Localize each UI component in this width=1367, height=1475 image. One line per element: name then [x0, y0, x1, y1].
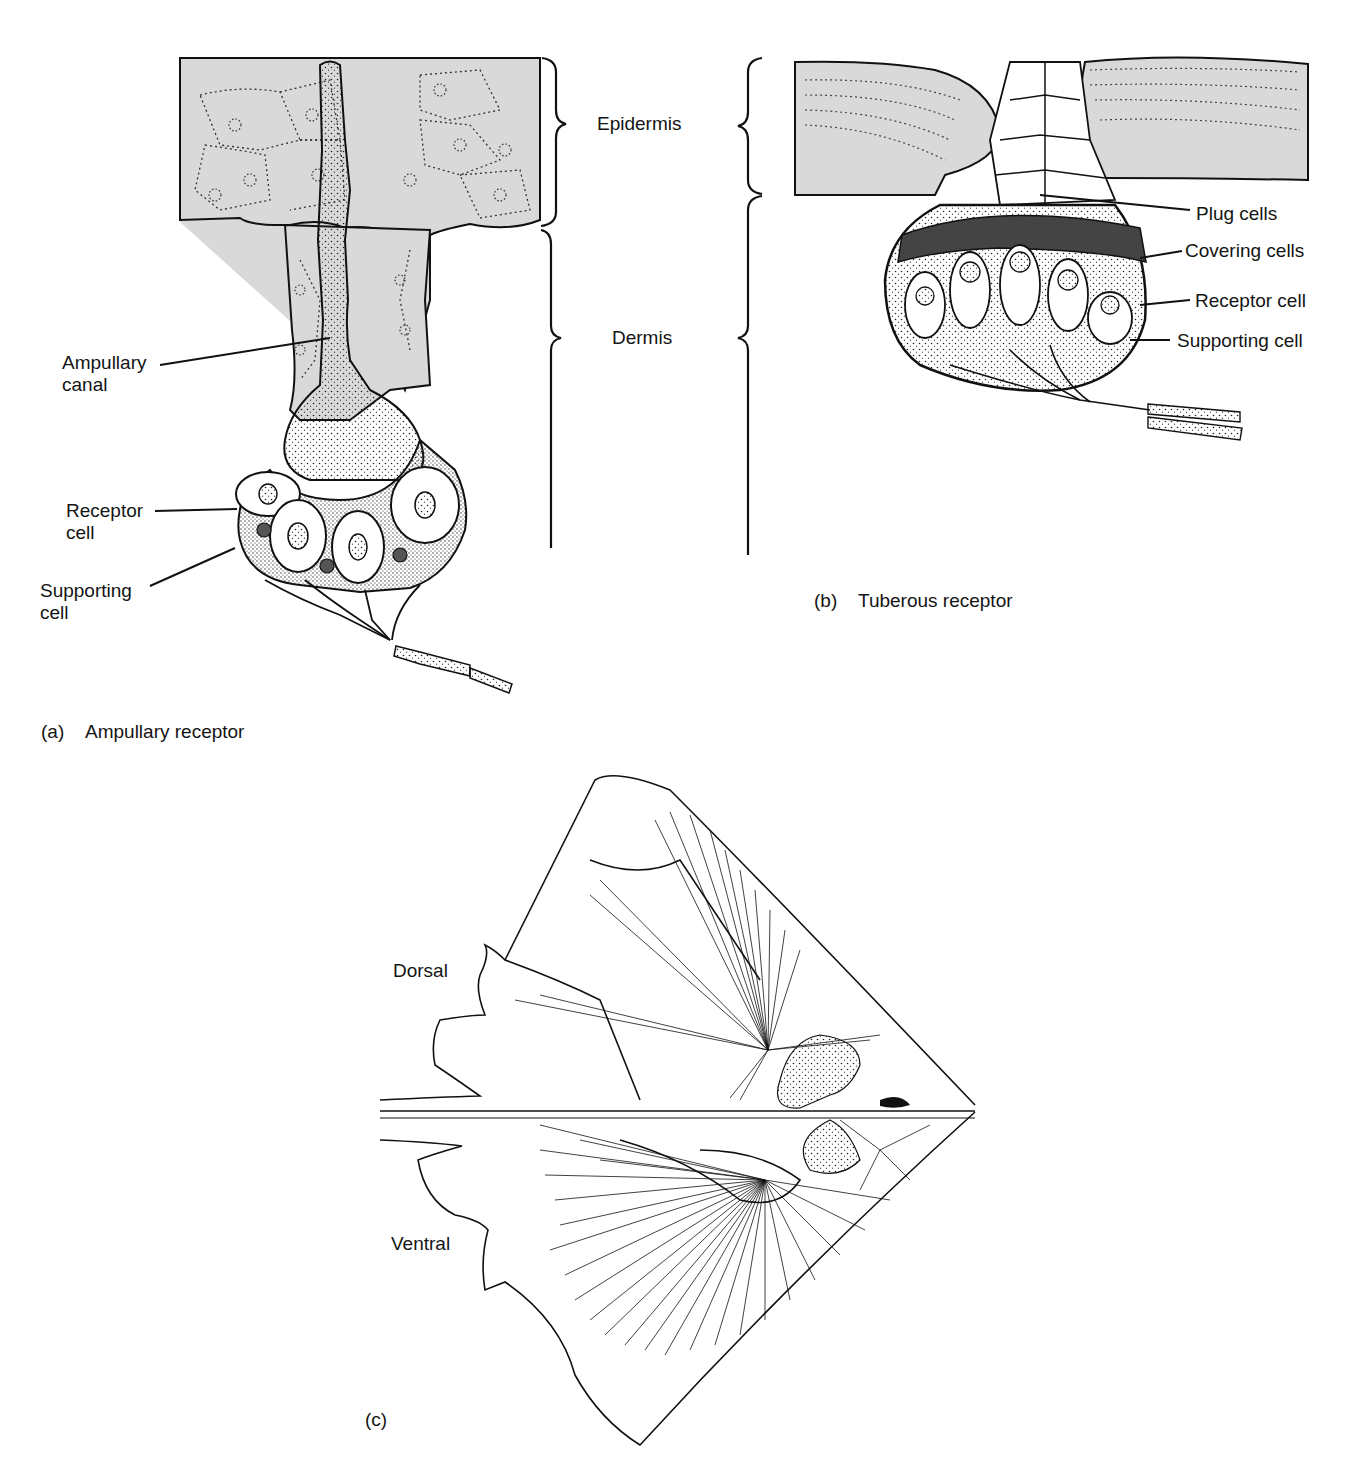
- caption-title-b: Tuberous receptor: [858, 590, 1013, 611]
- caption-panel-a: (a)Ampullary receptor: [41, 721, 244, 743]
- fish-distribution-drawing: [380, 776, 975, 1445]
- ventral-fibres: [540, 1120, 930, 1355]
- label-receptor-cell-b: Receptor cell: [1195, 290, 1306, 312]
- caption-title-a: Ampullary receptor: [85, 721, 244, 742]
- label-supporting-cell-b: Supporting cell: [1177, 330, 1303, 352]
- label-receptor-cell-a: Receptor cell: [66, 500, 156, 544]
- label-dorsal: Dorsal: [393, 960, 448, 982]
- label-epidermis: Epidermis: [597, 113, 681, 135]
- caption-panel-c: (c): [365, 1409, 409, 1431]
- label-dermis: Dermis: [612, 327, 672, 349]
- caption-tag-a: (a): [41, 721, 85, 743]
- label-ventral: Ventral: [391, 1233, 450, 1255]
- caption-panel-b: (b)Tuberous receptor: [814, 590, 1013, 612]
- caption-tag-b: (b): [814, 590, 858, 612]
- label-plug-cells: Plug cells: [1196, 203, 1277, 225]
- caption-tag-c: (c): [365, 1409, 409, 1431]
- label-ampullary-canal: Ampullary canal: [62, 352, 162, 396]
- label-covering-cells: Covering cells: [1185, 240, 1304, 262]
- label-supporting-cell-a: Supporting cell: [40, 580, 150, 624]
- ampullary-receptor-drawing: [150, 57, 540, 693]
- brain-region-detail: [778, 1035, 911, 1173]
